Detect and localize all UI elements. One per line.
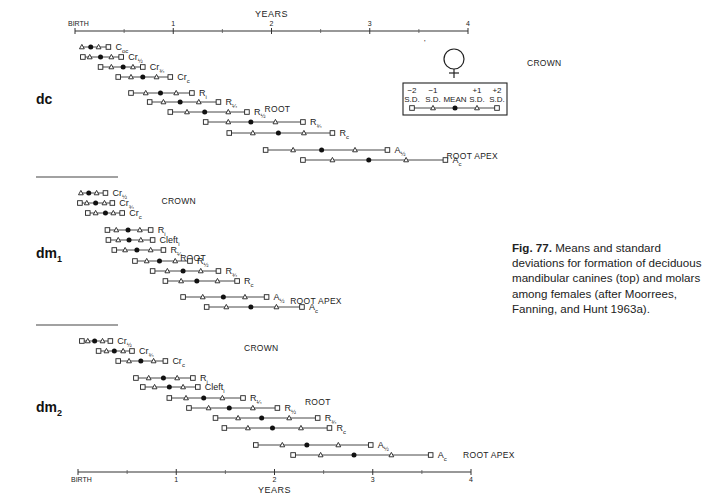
sd1-triangle-marker xyxy=(291,147,296,151)
tick-label: 3 xyxy=(368,20,372,27)
sd2-square-marker xyxy=(110,201,115,206)
sd2-square-marker xyxy=(216,100,221,105)
sd1-triangle-marker xyxy=(165,268,170,272)
sd1-triangle-marker xyxy=(273,119,278,123)
sd1-triangle-marker xyxy=(299,425,304,429)
sd1-triangle-marker xyxy=(131,64,136,68)
phase-label: ROOT xyxy=(305,397,331,407)
mean-dot-marker xyxy=(121,65,126,70)
sd2-square-marker xyxy=(264,295,269,300)
sd2-square-marker xyxy=(116,359,121,364)
sd1-triangle-marker xyxy=(109,64,114,68)
tick-label: 4 xyxy=(466,20,470,27)
sd1-triangle-marker xyxy=(220,395,225,399)
sd1-triangle-marker xyxy=(127,358,132,362)
mean-dot-marker xyxy=(202,110,207,115)
stage-row-dc-Ri: Ri xyxy=(129,88,207,100)
stage-label: A½ xyxy=(394,145,405,157)
sd2-square-marker xyxy=(385,148,390,153)
sd2-square-marker xyxy=(120,211,125,216)
sd2-square-marker xyxy=(81,55,86,60)
stage-row-dm2-Cr34: Cr¾ xyxy=(96,346,154,358)
axis-title: YEARS xyxy=(255,9,288,19)
sd2-square-marker xyxy=(188,259,193,264)
stage-label: A½ xyxy=(274,292,285,304)
mean-dot-marker xyxy=(304,443,309,448)
mean-dot-marker xyxy=(248,120,253,125)
sd1-triangle-marker xyxy=(114,227,119,231)
bottom-x-axis: BIRTH1234YEARS xyxy=(71,469,473,495)
stage-row-dm1-R14: R¼ xyxy=(112,245,183,257)
sd1-triangle-marker xyxy=(353,147,358,151)
legend-sd-value: −2 xyxy=(407,86,417,95)
stage-row-dm1-A12: A½ xyxy=(181,292,285,304)
mean-dot-marker xyxy=(181,269,186,274)
group-dm1: dm1CROWNROOTROOT APEXCr½Cr¾CrcRiCleftiR¼… xyxy=(36,188,342,314)
sd2-square-marker xyxy=(216,269,221,274)
sd1-triangle-marker xyxy=(184,395,189,399)
sd1-triangle-marker xyxy=(104,348,109,352)
sd1-triangle-marker xyxy=(179,278,184,282)
sd1-triangle-marker xyxy=(154,74,159,78)
stage-label: Crc xyxy=(129,208,142,220)
female-symbol-icon xyxy=(444,49,464,78)
sd2-square-marker xyxy=(410,106,415,111)
sd1-triangle-marker xyxy=(246,425,251,429)
phase-label: CROWN xyxy=(244,343,279,353)
mean-dot-marker xyxy=(221,295,226,300)
axis-title: YEARS xyxy=(258,485,291,495)
stage-label: Cr¾ xyxy=(150,62,166,74)
stage-label: R¾ xyxy=(325,413,338,425)
legend-sd-value: +1 xyxy=(472,86,482,95)
phase-label: ROOT xyxy=(265,104,291,114)
sd1-triangle-marker xyxy=(243,294,248,298)
sd2-square-marker xyxy=(106,45,111,50)
group-label-dm1: dm1 xyxy=(36,245,62,264)
sd1-triangle-marker xyxy=(161,99,166,103)
sd2-square-marker xyxy=(147,100,152,105)
sd1-triangle-marker xyxy=(280,442,285,446)
mean-dot-marker xyxy=(259,416,264,421)
stage-label: R½ xyxy=(284,403,296,415)
stage-row-dm1-R12: R½ xyxy=(133,256,209,268)
sd1-triangle-marker xyxy=(94,190,99,194)
sd2-square-marker xyxy=(140,385,145,390)
stage-label: Rc xyxy=(244,276,254,288)
legend-sd-label: MEAN xyxy=(443,95,466,104)
stage-row-dc-A12: A½ xyxy=(263,145,405,157)
sd1-triangle-marker xyxy=(78,190,83,194)
sd2-square-marker xyxy=(161,248,166,253)
top-x-axis: BIRTH1234YEARS xyxy=(68,9,470,34)
sd1-triangle-marker xyxy=(200,294,205,298)
phase-label: CROWN xyxy=(161,196,196,206)
sd1-triangle-marker xyxy=(79,44,84,48)
sd1-triangle-marker xyxy=(137,227,142,231)
stage-label: R½ xyxy=(197,256,209,268)
stage-row-dm1-Crc: Crc xyxy=(85,208,141,220)
mean-dot-marker xyxy=(93,201,98,206)
stage-label: Coc xyxy=(115,42,128,54)
sd1-triangle-marker xyxy=(175,375,180,379)
stage-row-dm2-Rc: Rc xyxy=(222,423,346,435)
sd2-square-marker xyxy=(300,305,305,310)
tick-label: BIRTH xyxy=(68,20,89,27)
sd1-triangle-marker xyxy=(404,157,409,161)
mean-dot-marker xyxy=(319,148,324,153)
sd1-triangle-marker xyxy=(318,452,323,456)
sd1-triangle-marker xyxy=(138,237,143,241)
sd2-square-marker xyxy=(190,91,195,96)
sd1-triangle-marker xyxy=(102,200,107,204)
legend-sd-value: +2 xyxy=(492,86,502,95)
sd1-triangle-marker xyxy=(250,405,255,409)
stage-label: Clefti xyxy=(205,382,225,394)
stage-label: A½ xyxy=(378,440,389,452)
sd1-triangle-marker xyxy=(129,74,134,78)
sd2-square-marker xyxy=(253,443,258,448)
sd2-square-marker xyxy=(148,228,153,233)
mean-dot-marker xyxy=(157,259,162,264)
mean-dot-marker xyxy=(134,248,139,253)
mean-dot-marker xyxy=(103,211,108,216)
stage-row-dm1-Cr34: Cr¾ xyxy=(78,198,135,210)
sd2-square-marker xyxy=(78,201,83,206)
mean-dot-marker xyxy=(248,305,253,310)
